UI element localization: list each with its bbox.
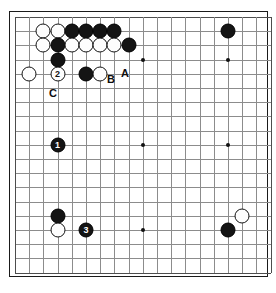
point-label-b: B: [107, 74, 115, 85]
stone-black[interactable]: [121, 38, 136, 53]
stone-white[interactable]: [79, 38, 94, 53]
stone-black[interactable]: [50, 52, 65, 67]
stone-white-move-2[interactable]: 2: [50, 66, 65, 81]
grid-line-vertical-2: [29, 17, 30, 273]
point-label-c: C: [49, 88, 57, 99]
grid-line-vertical-19: [271, 17, 272, 273]
star-point: [141, 143, 145, 147]
stone-white[interactable]: [64, 38, 79, 53]
grid-line-vertical-9: [129, 17, 130, 273]
stone-white[interactable]: [36, 38, 51, 53]
grid-line-vertical-5: [72, 17, 73, 273]
grid-line-horizontal-19: [15, 273, 271, 274]
star-point: [226, 58, 230, 62]
stone-black[interactable]: [221, 24, 236, 39]
stone-white[interactable]: [235, 208, 250, 223]
star-point: [141, 228, 145, 232]
stone-black-move-1[interactable]: 1: [50, 137, 65, 152]
grid-line-vertical-13: [185, 17, 186, 273]
grid-line-vertical-18: [256, 17, 257, 273]
stone-black[interactable]: [50, 38, 65, 53]
stone-black[interactable]: [107, 24, 122, 39]
stone-black[interactable]: [79, 66, 94, 81]
star-point: [226, 143, 230, 147]
go-board[interactable]: 213 ABC: [9, 11, 268, 277]
stone-black[interactable]: [64, 24, 79, 39]
stone-white[interactable]: [93, 66, 108, 81]
go-diagram-root: 213 ABC: [0, 0, 276, 293]
stone-white[interactable]: [36, 24, 51, 39]
grid-line-vertical-3: [43, 17, 44, 273]
grid-line-vertical-7: [100, 17, 101, 273]
grid-line-vertical-15: [214, 17, 215, 273]
stone-white[interactable]: [50, 223, 65, 238]
stone-white[interactable]: [107, 38, 122, 53]
stone-white[interactable]: [93, 38, 108, 53]
grid-line-vertical-1: [15, 17, 16, 273]
stone-black[interactable]: [79, 24, 94, 39]
grid-line-vertical-8: [114, 17, 115, 273]
stone-black-move-3[interactable]: 3: [79, 223, 94, 238]
grid-line-vertical-11: [157, 17, 158, 273]
stone-black[interactable]: [221, 223, 236, 238]
grid-line-vertical-17: [242, 17, 243, 273]
star-point: [141, 58, 145, 62]
stone-white[interactable]: [50, 24, 65, 39]
grid-line-vertical-14: [200, 17, 201, 273]
point-label-a: A: [121, 68, 129, 79]
stone-black[interactable]: [50, 208, 65, 223]
grid-line-vertical-12: [171, 17, 172, 273]
stone-white[interactable]: [22, 66, 37, 81]
stone-black[interactable]: [93, 24, 108, 39]
